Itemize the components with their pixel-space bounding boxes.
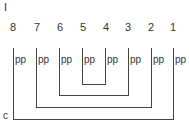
node-label-2: pp <box>153 54 164 65</box>
node-label-6: pp <box>61 54 72 65</box>
node-label-4: pp <box>107 54 118 65</box>
node-label-5: pp <box>84 54 95 65</box>
node-label-1: pp <box>175 54 186 65</box>
node-label-3: pp <box>130 54 141 65</box>
corner-label: c <box>3 110 8 121</box>
node-label-8: pp <box>15 54 26 65</box>
node-label-7: pp <box>38 54 49 65</box>
